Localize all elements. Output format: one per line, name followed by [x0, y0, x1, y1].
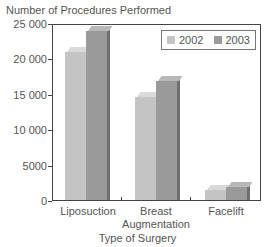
legend: 2002 2003 — [161, 30, 256, 50]
y-tick-label: 15 000 — [13, 89, 47, 101]
y-tick-label: 20 000 — [13, 53, 47, 65]
legend-swatch-2002 — [167, 36, 175, 44]
legend-item-2002: 2002 — [167, 34, 203, 46]
y-tick-mark — [48, 201, 52, 202]
legend-item-2003: 2003 — [214, 34, 250, 46]
y-tick-label: 5000 — [23, 160, 47, 172]
plot-frame — [52, 24, 261, 201]
y-axis-title: Number of Procedures Performed — [6, 4, 171, 16]
x-category-label: Facelift — [181, 205, 271, 218]
x-axis-title: Type of Surgery — [0, 232, 275, 244]
legend-swatch-2003 — [214, 36, 222, 44]
y-tick-label: 10 000 — [13, 124, 47, 136]
legend-label-2002: 2002 — [179, 34, 203, 46]
legend-label-2003: 2003 — [226, 34, 250, 46]
y-tick-label: 25 000 — [13, 18, 47, 30]
